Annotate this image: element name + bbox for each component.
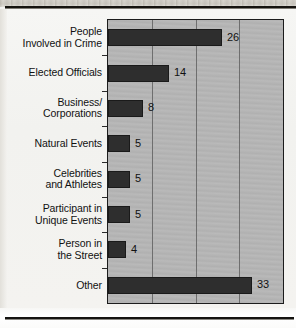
bar bbox=[108, 29, 222, 46]
category-label: People Involved in Crime bbox=[2, 26, 102, 49]
axis-tick bbox=[102, 162, 107, 163]
category-label: Person in the Street bbox=[2, 238, 102, 261]
gridline-20 bbox=[196, 20, 197, 303]
category-label: Participant in Unique Events bbox=[2, 203, 102, 226]
bar bbox=[108, 171, 130, 188]
scanned-page: 26People Involved in Crime14Elected Offi… bbox=[0, 0, 296, 328]
bar bbox=[108, 241, 126, 258]
category-label: Other bbox=[2, 280, 102, 292]
bar bbox=[108, 206, 130, 223]
bar bbox=[108, 65, 169, 82]
bar-value-label: 33 bbox=[257, 279, 269, 290]
bar-value-label: 8 bbox=[148, 102, 154, 113]
plot-area bbox=[107, 19, 284, 304]
category-label: Elected Officials bbox=[2, 67, 102, 79]
bar-value-label: 5 bbox=[135, 209, 141, 220]
category-label: Business/ Corporations bbox=[2, 97, 102, 120]
gridline-10 bbox=[152, 20, 153, 303]
bar-value-label: 5 bbox=[135, 173, 141, 184]
horizontal-bar-chart: 26People Involved in Crime14Elected Offi… bbox=[0, 0, 296, 328]
category-label: Celebrities and Athletes bbox=[2, 168, 102, 191]
axis-tick bbox=[102, 232, 107, 233]
bar bbox=[108, 135, 130, 152]
axis-tick bbox=[102, 55, 107, 56]
axis-tick bbox=[102, 91, 107, 92]
bar-value-label: 14 bbox=[174, 67, 186, 78]
axis-tick bbox=[102, 197, 107, 198]
gridline-30 bbox=[239, 20, 240, 303]
bar-value-label: 5 bbox=[135, 138, 141, 149]
axis-tick bbox=[102, 268, 107, 269]
bar bbox=[108, 100, 143, 117]
axis-tick bbox=[102, 126, 107, 127]
bar-value-label: 4 bbox=[131, 244, 137, 255]
bar-value-label: 26 bbox=[227, 32, 239, 43]
category-label: Natural Events bbox=[2, 138, 102, 150]
bar bbox=[108, 277, 252, 294]
